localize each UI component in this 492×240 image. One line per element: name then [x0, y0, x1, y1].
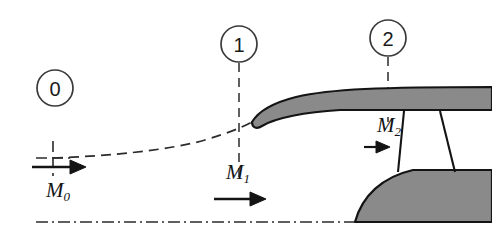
- mach-1-symbol: M: [226, 160, 244, 184]
- capture-streamline: [53, 122, 252, 158]
- station-2-label: 2: [382, 28, 393, 50]
- diagram-canvas: 0 1 2: [0, 0, 492, 240]
- mach-1-arrow: [214, 192, 266, 206]
- mach-0-symbol: M: [46, 178, 64, 202]
- station-0-label: 0: [49, 78, 60, 100]
- cowl-shape: [252, 87, 492, 128]
- mach-2-label: M2: [377, 113, 401, 138]
- mach-1-subscript: 1: [244, 171, 251, 186]
- mach-2-symbol: M: [377, 113, 395, 137]
- inlet-diagram: 0 1 2 M0 M1 M2: [0, 0, 492, 240]
- station-1-marker: 1: [221, 26, 257, 62]
- station-2-marker: 2: [370, 20, 406, 56]
- mach-2-arrow: [364, 141, 390, 153]
- mach-2-subscript: 2: [395, 124, 402, 139]
- station-0-marker: 0: [37, 70, 73, 106]
- mach-0-arrow: [32, 160, 86, 174]
- mach-1-label: M1: [226, 160, 250, 185]
- station-1-label: 1: [233, 34, 244, 56]
- mach-0-subscript: 0: [64, 189, 71, 204]
- spinner-shape: [355, 170, 492, 222]
- mach-0-label: M0: [46, 178, 70, 203]
- fan-blade-trailing: [440, 111, 455, 172]
